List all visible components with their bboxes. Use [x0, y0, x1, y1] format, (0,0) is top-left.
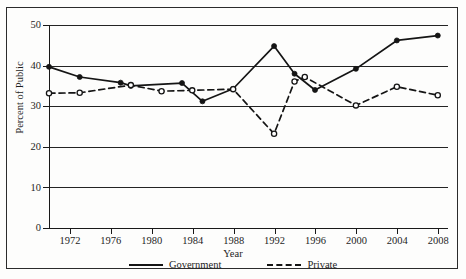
y-tick-label-10: 10 [7, 182, 41, 193]
x-tick-label-2000: 2000 [346, 235, 367, 246]
x-tick-label-1988: 1988 [223, 235, 244, 246]
x-tick-mark-2000 [356, 228, 357, 234]
legend-label-government: Government [169, 260, 222, 271]
legend-solid-line-icon [129, 264, 163, 266]
x-tick-mark-2008 [438, 228, 439, 234]
figure-border [6, 7, 458, 269]
y-tick-label-50: 50 [7, 19, 41, 30]
x-tick-mark-2004 [397, 228, 398, 234]
x-axis-title: Year [0, 248, 466, 259]
gridline-40 [49, 66, 448, 67]
gridline-20 [49, 147, 448, 148]
legend-label-private: Private [307, 260, 337, 271]
x-tick-label-2008: 2008 [428, 235, 449, 246]
legend-item-government: Government [129, 260, 222, 271]
x-tick-mark-1992 [275, 228, 276, 234]
x-tick-label-1992: 1992 [264, 235, 285, 246]
legend-item-private: Private [267, 260, 337, 271]
x-tick-label-2004: 2004 [387, 235, 408, 246]
x-tick-mark-1988 [234, 228, 235, 234]
gridline-50 [49, 25, 448, 26]
x-tick-label-1980: 1980 [141, 235, 162, 246]
x-tick-label-1984: 1984 [182, 235, 203, 246]
x-tick-label-1996: 1996 [305, 235, 326, 246]
chart-legend: Government Private [0, 260, 466, 271]
gridline-30 [49, 106, 448, 107]
legend-dashed-line-icon [267, 264, 301, 266]
x-tick-mark-1972 [70, 228, 71, 234]
x-tick-label-1976: 1976 [100, 235, 121, 246]
x-tick-mark-1996 [315, 228, 316, 234]
x-axis-line [49, 228, 448, 229]
y-axis-line [49, 25, 50, 228]
gridline-10 [49, 187, 448, 188]
y-tick-label-0: 0 [7, 222, 41, 233]
x-tick-mark-1976 [111, 228, 112, 234]
x-tick-mark-1984 [193, 228, 194, 234]
chart-figure: 50 40 30 20 10 0 1972 1976 1980 1984 198… [0, 0, 466, 279]
y-axis-title: Percent of Public [14, 33, 25, 163]
x-tick-mark-1980 [152, 228, 153, 234]
x-tick-label-1972: 1972 [59, 235, 80, 246]
